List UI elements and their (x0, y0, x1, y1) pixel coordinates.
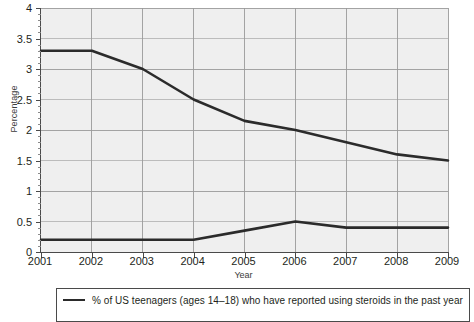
y-minor-tick-mark (38, 246, 41, 247)
y-minor-tick-mark (38, 148, 41, 149)
y-tick-mark (36, 8, 41, 9)
y-tick-label: 3.5 (17, 33, 32, 44)
x-tick-label: 2004 (180, 256, 204, 267)
x-tick-label: 2002 (79, 256, 103, 267)
y-tick-label: 0.5 (17, 216, 32, 227)
y-minor-tick-mark (38, 154, 41, 155)
y-minor-tick-mark (38, 203, 41, 204)
y-tick-label: 4 (26, 3, 32, 14)
y-minor-tick-mark (38, 118, 41, 119)
data-series-lines (41, 8, 448, 252)
y-minor-tick-mark (38, 63, 41, 64)
y-minor-tick-mark (38, 209, 41, 210)
y-minor-tick-mark (38, 197, 41, 198)
y-minor-tick-mark (38, 32, 41, 33)
y-minor-tick-mark (38, 234, 41, 235)
x-tick-label: 2008 (384, 256, 408, 267)
y-minor-tick-mark (38, 45, 41, 46)
x-tick-label: 2001 (28, 256, 52, 267)
y-tick-label: 1 (26, 186, 32, 197)
y-tick-mark (36, 161, 41, 162)
y-minor-tick-mark (38, 185, 41, 186)
legend-line-swatch-icon (63, 299, 85, 301)
y-minor-tick-mark (38, 136, 41, 137)
y-tick-mark (36, 39, 41, 40)
y-minor-tick-mark (38, 93, 41, 94)
y-minor-tick-mark (38, 167, 41, 168)
y-minor-tick-mark (38, 87, 41, 88)
x-tick-label: 2006 (282, 256, 306, 267)
y-minor-tick-mark (38, 26, 41, 27)
x-tick-label: 2003 (130, 256, 154, 267)
y-tick-label: 3 (26, 64, 32, 75)
x-tick-label: 2009 (435, 256, 459, 267)
y-minor-tick-mark (38, 240, 41, 241)
y-minor-tick-mark (38, 179, 41, 180)
y-minor-tick-mark (38, 215, 41, 216)
x-tick-label: 2005 (231, 256, 255, 267)
y-minor-tick-mark (38, 228, 41, 229)
y-minor-tick-mark (38, 142, 41, 143)
y-minor-tick-mark (38, 20, 41, 21)
plot-area (40, 8, 448, 253)
y-tick-mark (36, 100, 41, 101)
legend: % of US teenagers (ages 14–18) who have … (56, 288, 470, 322)
y-minor-tick-mark (38, 51, 41, 52)
y-tick-label: 1.5 (17, 155, 32, 166)
y-minor-tick-mark (38, 57, 41, 58)
legend-entry: % of US teenagers (ages 14–18) who have … (63, 293, 463, 307)
y-minor-tick-mark (38, 75, 41, 76)
y-minor-tick-mark (38, 173, 41, 174)
y-minor-tick-mark (38, 106, 41, 107)
x-tick-label: 2007 (333, 256, 357, 267)
y-minor-tick-mark (38, 81, 41, 82)
y-minor-tick-mark (38, 124, 41, 125)
y-axis-tick-labels: 00.511.522.533.54 (0, 0, 36, 260)
x-axis-title: Year (40, 270, 447, 280)
y-tick-mark (36, 222, 41, 223)
y-tick-mark (36, 191, 41, 192)
y-minor-tick-mark (38, 14, 41, 15)
y-minor-tick-mark (38, 112, 41, 113)
y-tick-mark (36, 130, 41, 131)
y-tick-label: 2.5 (17, 94, 32, 105)
y-tick-mark (36, 69, 41, 70)
legend-label: % of US teenagers (ages 14–18) who have … (92, 295, 463, 306)
y-tick-label: 2 (26, 125, 32, 136)
